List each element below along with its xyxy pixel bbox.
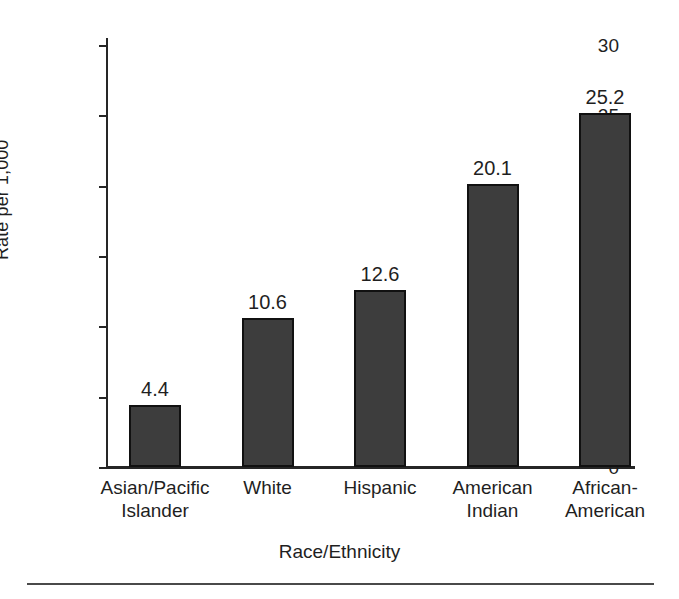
y-axis-tick	[99, 115, 108, 117]
bar-item: 20.1	[467, 45, 519, 467]
bar-item: 10.6	[242, 45, 294, 467]
bar-item: 4.4	[129, 45, 181, 467]
bar-value-label: 10.6	[248, 292, 287, 312]
bar-value-label: 25.2	[586, 87, 625, 107]
y-axis-tick	[99, 45, 108, 47]
bar-rect	[354, 290, 406, 467]
x-axis-category-label: African- American	[530, 476, 679, 522]
bar-item: 25.2	[579, 45, 631, 467]
y-axis-tick	[99, 467, 108, 469]
bar-rect	[129, 405, 181, 467]
y-axis-tick	[99, 397, 108, 399]
plot-area: 051015202530 4.410.612.620.125.2	[108, 45, 635, 467]
y-axis-tick	[99, 326, 108, 328]
y-axis-tick	[99, 256, 108, 258]
y-axis-title: Rate per 1,000	[0, 140, 13, 260]
bar-chart-figure: Rate per 1,000 051015202530 4.410.612.62…	[0, 0, 679, 599]
y-axis-tick	[99, 186, 108, 188]
bar-rect	[579, 113, 631, 467]
x-axis-title: Race/Ethnicity	[0, 541, 679, 563]
footer-divider	[27, 583, 654, 585]
bar-value-label: 12.6	[361, 264, 400, 284]
bar-item: 12.6	[354, 45, 406, 467]
bar-rect	[242, 318, 294, 467]
bar-value-label: 20.1	[473, 158, 512, 178]
bar-value-label: 4.4	[141, 379, 169, 399]
bar-rect	[467, 184, 519, 467]
